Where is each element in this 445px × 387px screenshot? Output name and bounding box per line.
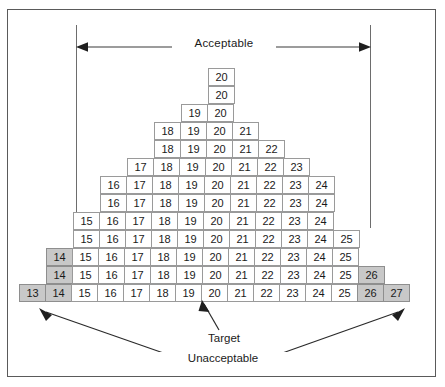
grid-cell[interactable]: 20 — [207, 104, 234, 122]
grid-cell[interactable]: 20 — [203, 230, 230, 248]
grid-cell[interactable]: 24 — [308, 176, 335, 194]
grid-cell[interactable]: 15 — [72, 248, 99, 266]
grid-cell[interactable]: 24 — [306, 248, 333, 266]
grid-cell[interactable]: 20 — [204, 194, 231, 212]
grid-row: 1819202122 — [154, 140, 285, 158]
grid-cell[interactable]: 21 — [229, 230, 256, 248]
grid-cell[interactable]: 18 — [152, 194, 179, 212]
grid-cell[interactable]: 18 — [153, 158, 180, 176]
grid-cell[interactable]: 19 — [177, 212, 204, 230]
acceptable-label: Acceptable — [176, 37, 272, 49]
grid-cell[interactable]: 19 — [180, 140, 207, 158]
grid-cell[interactable]: 23 — [281, 212, 308, 230]
grid-cell[interactable]: 23 — [280, 248, 307, 266]
grid-cell[interactable]: 21 — [230, 194, 257, 212]
grid-cell[interactable]: 16 — [100, 176, 127, 194]
grid-cell[interactable]: 15 — [72, 266, 99, 284]
grid-cell[interactable]: 23 — [282, 194, 309, 212]
grid-row: 1920 — [181, 104, 234, 122]
grid-cell[interactable]: 14 — [46, 266, 73, 284]
grid-cell[interactable]: 24 — [308, 194, 335, 212]
grid-cell[interactable]: 16 — [99, 230, 126, 248]
grid-cell[interactable]: 18 — [151, 230, 178, 248]
grid-cell[interactable]: 23 — [282, 176, 309, 194]
grid-row: 20 — [208, 86, 235, 104]
grid-cell[interactable]: 26 — [358, 266, 385, 284]
grid-cell[interactable]: 25 — [332, 248, 359, 266]
grid-cell[interactable]: 19 — [178, 176, 205, 194]
grid-cell[interactable]: 18 — [154, 122, 181, 140]
grid-cell[interactable]: 23 — [281, 230, 308, 248]
grid-row: 17181920212223 — [127, 158, 310, 176]
grid-row: 14151617181920212223242526 — [46, 266, 385, 284]
grid-cell[interactable]: 21 — [232, 140, 259, 158]
grid-cell[interactable]: 22 — [254, 248, 281, 266]
grid-cell[interactable]: 19 — [176, 248, 203, 266]
grid-cell[interactable]: 22 — [255, 230, 282, 248]
grid-cell[interactable]: 19 — [179, 158, 206, 176]
grid-cell[interactable]: 17 — [127, 158, 154, 176]
grid-cell[interactable]: 21 — [228, 248, 255, 266]
grid-cell[interactable]: 18 — [151, 212, 178, 230]
grid-cell[interactable]: 17 — [126, 176, 153, 194]
grid-cell[interactable]: 24 — [306, 266, 333, 284]
grid-cell[interactable]: 22 — [256, 194, 283, 212]
grid-row: 20 — [208, 68, 235, 86]
grid-cell[interactable]: 17 — [124, 266, 151, 284]
grid-cell[interactable]: 21 — [229, 212, 256, 230]
grid-cell[interactable]: 14 — [46, 248, 73, 266]
grid-cell[interactable]: 20 — [202, 248, 229, 266]
grid-cell[interactable]: 20 — [202, 266, 229, 284]
grid-cell[interactable]: 25 — [332, 266, 359, 284]
grid-row: 15161718192021222324 — [73, 212, 334, 230]
grid-cell[interactable]: 20 — [205, 158, 232, 176]
grid-row: 161718192021222324 — [100, 176, 335, 194]
grid-cell[interactable]: 22 — [256, 176, 283, 194]
grid-cell[interactable]: 19 — [180, 122, 207, 140]
grid-cell[interactable]: 23 — [283, 158, 310, 176]
grid-cell[interactable]: 23 — [280, 266, 307, 284]
grid-cell[interactable]: 17 — [125, 212, 152, 230]
grid-cell[interactable]: 22 — [254, 266, 281, 284]
unacceptable-label: Unacceptable — [143, 352, 303, 364]
grid-cell[interactable]: 25 — [333, 230, 360, 248]
grid-cell[interactable]: 20 — [204, 176, 231, 194]
grid-cell[interactable]: 19 — [177, 230, 204, 248]
grid-cell[interactable]: 20 — [208, 68, 235, 86]
grid-cell[interactable]: 22 — [258, 140, 285, 158]
grid-cell[interactable]: 16 — [98, 248, 125, 266]
grid-cell[interactable]: 17 — [124, 248, 151, 266]
grid-cell[interactable]: 16 — [98, 266, 125, 284]
grid-cell[interactable]: 21 — [230, 176, 257, 194]
grid-cell[interactable]: 15 — [73, 230, 100, 248]
grid-cell[interactable]: 18 — [152, 176, 179, 194]
grid-cell[interactable]: 22 — [255, 212, 282, 230]
grid-cell[interactable]: 17 — [126, 194, 153, 212]
grid-cell[interactable]: 21 — [231, 158, 258, 176]
grid-row: 161718192021222324 — [100, 194, 335, 212]
grid-cell[interactable]: 20 — [203, 212, 230, 230]
grid-row: 18192021 — [154, 122, 259, 140]
grid-cell[interactable]: 17 — [125, 230, 152, 248]
grid-row: 141516171819202122232425 — [46, 248, 359, 266]
grid-row: 1516171819202122232425 — [73, 230, 360, 248]
grid-cell[interactable]: 19 — [181, 104, 208, 122]
grid-cell[interactable]: 20 — [206, 140, 233, 158]
grid-cell[interactable]: 18 — [150, 248, 177, 266]
grid-cell[interactable]: 19 — [176, 266, 203, 284]
grid-cell[interactable]: 24 — [307, 212, 334, 230]
grid-cell[interactable]: 22 — [257, 158, 284, 176]
grid-cell[interactable]: 20 — [206, 122, 233, 140]
grid-cell[interactable]: 20 — [208, 86, 235, 104]
grid-cell[interactable]: 18 — [154, 140, 181, 158]
grid-cell[interactable]: 24 — [307, 230, 334, 248]
diagram-stage: Acceptable 20201920181920211819202122171… — [0, 0, 445, 387]
grid-cell[interactable]: 16 — [100, 194, 127, 212]
tolerance-grid: 2020192018192021181920212217181920212223… — [19, 68, 425, 303]
grid-cell[interactable]: 16 — [99, 212, 126, 230]
grid-cell[interactable]: 21 — [232, 122, 259, 140]
grid-cell[interactable]: 21 — [228, 266, 255, 284]
grid-cell[interactable]: 15 — [73, 212, 100, 230]
grid-cell[interactable]: 18 — [150, 266, 177, 284]
grid-cell[interactable]: 19 — [178, 194, 205, 212]
